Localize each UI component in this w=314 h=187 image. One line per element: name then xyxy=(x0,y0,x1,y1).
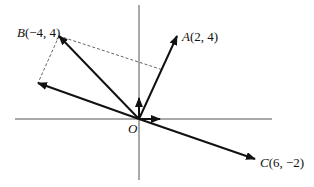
label-b: B(−4, 4) xyxy=(17,25,60,40)
vector-od xyxy=(38,83,139,119)
label-b-letter: B xyxy=(17,25,25,40)
label-b-coords: (−4, 4) xyxy=(25,25,61,40)
label-a-coords: (2, 4) xyxy=(190,29,218,44)
label-c-coords: (6, −2) xyxy=(269,155,305,170)
dashed-line-b-to-d xyxy=(38,36,59,83)
label-a: A(2, 4) xyxy=(181,29,218,44)
label-a-letter: A xyxy=(181,29,190,44)
label-origin: O xyxy=(128,121,138,136)
label-c: C(6, −2) xyxy=(260,155,304,170)
vector-ob xyxy=(59,36,139,119)
vector-oa xyxy=(139,36,177,119)
vector-oc xyxy=(139,119,255,159)
label-c-letter: C xyxy=(260,155,269,170)
vector-diagram: B(−4, 4) A(2, 4) C(6, −2) O xyxy=(0,0,314,187)
